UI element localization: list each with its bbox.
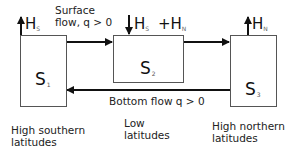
surface-flow-label: Surface flow, q > 0 (55, 4, 112, 28)
region-label-s3: High northern latitudes (212, 120, 285, 144)
region-label-s1: High southern latitudes (11, 124, 85, 148)
s1-label: S1 (35, 71, 51, 93)
s2-label: S2 (140, 60, 156, 82)
hs-label-s2: HS (134, 17, 149, 36)
hn-label-s2: +HN (158, 17, 186, 36)
hs-label-s1: HS (25, 17, 40, 36)
region-label-s2: Low latitudes (124, 117, 170, 141)
s3-label: S3 (245, 81, 261, 103)
bottom-flow-label: Bottom flow q > 0 (109, 95, 205, 107)
hn-label-s3: HN (252, 17, 268, 36)
